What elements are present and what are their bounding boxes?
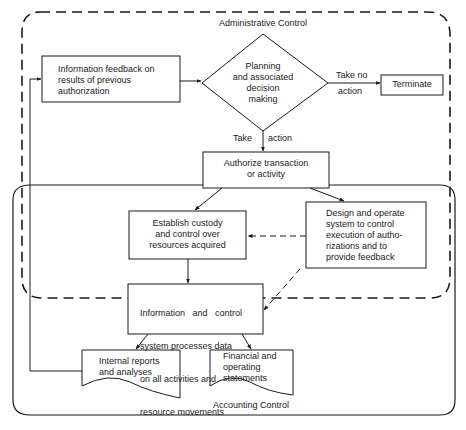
edge-authorize-to-design bbox=[310, 188, 344, 201]
no-action-label-top: Take no bbox=[336, 70, 368, 81]
planning-line-1: Planning bbox=[218, 61, 308, 72]
design-line-1: Design and operate bbox=[326, 208, 405, 219]
edge-design-to-info bbox=[264, 269, 300, 310]
custody-line-1: Establish custody bbox=[129, 218, 246, 229]
planning-line-3: decision bbox=[218, 83, 308, 94]
design-line-4: rizations and to bbox=[326, 241, 405, 252]
authorize-line-2: or activity bbox=[203, 169, 329, 180]
edge-authorize-to-custody bbox=[195, 188, 222, 210]
planning-text: Planning and associated decision making bbox=[218, 61, 308, 105]
financial-statements-line-3: statements bbox=[223, 373, 277, 384]
feedback-box-text: Information feedback on results of previ… bbox=[58, 64, 155, 97]
authorize-text: Authorize transaction or activity bbox=[203, 158, 329, 180]
take-action-label-left: Take bbox=[233, 133, 252, 144]
design-line-5: provide feedback bbox=[326, 252, 405, 263]
feedback-line-2: results of previous bbox=[58, 75, 155, 86]
financial-statements-text: Financial and operating statements bbox=[223, 351, 277, 384]
terminate-text: Terminate bbox=[381, 79, 443, 90]
planning-line-2: and associated bbox=[218, 72, 308, 83]
custody-text: Establish custody and control over resou… bbox=[129, 218, 246, 251]
internal-reports-line-2: and analyses bbox=[99, 367, 160, 378]
feedback-line-3: authorization bbox=[58, 86, 155, 97]
planning-line-4: making bbox=[218, 94, 308, 105]
financial-statements-line-1: Financial and bbox=[223, 351, 277, 362]
info-system-line-4: resource movements bbox=[140, 407, 242, 418]
custody-line-3: resources acquired bbox=[129, 240, 246, 251]
internal-reports-line-1: Internal reports bbox=[99, 356, 160, 367]
design-line-3: execution of autho- bbox=[326, 230, 405, 241]
design-text: Design and operate system to control exe… bbox=[326, 208, 405, 263]
custody-line-2: and control over bbox=[129, 229, 246, 240]
take-action-label-right: action bbox=[268, 133, 292, 144]
authorize-line-1: Authorize transaction bbox=[203, 158, 329, 169]
info-system-line-1: Information and control bbox=[140, 308, 242, 319]
no-action-label-bottom: action bbox=[338, 86, 362, 97]
edge-info-to-financial bbox=[242, 334, 251, 349]
internal-reports-text: Internal reports and analyses bbox=[99, 356, 160, 378]
design-line-2: system to control bbox=[326, 219, 405, 230]
edge-internal-to-feedback bbox=[30, 79, 82, 371]
feedback-line-1: Information feedback on bbox=[58, 64, 155, 75]
financial-statements-line-2: operating bbox=[223, 362, 277, 373]
administrative-control-label: Administrative Control bbox=[219, 18, 307, 29]
